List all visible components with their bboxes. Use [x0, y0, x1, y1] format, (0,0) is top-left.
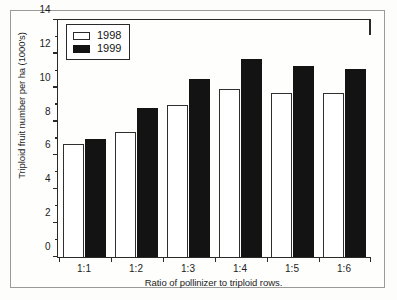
x-axis-tick-label: 1:1 [77, 263, 91, 274]
y-axis-tick-label: 12 [39, 37, 50, 48]
x-axis-tick [111, 257, 113, 262]
x-axis-tick [319, 257, 321, 262]
legend-label-1998: 1998 [97, 30, 121, 41]
x-axis-tick-label: 1:2 [129, 263, 143, 274]
y-axis-tick [53, 256, 59, 258]
bar-1998-1:6[interactable] [323, 93, 344, 257]
y-axis-tick-label: 4 [45, 173, 51, 184]
x-axis-tick-label: 1:5 [285, 263, 299, 274]
bar-1999-1:6[interactable] [345, 69, 366, 257]
legend-item-1998[interactable]: 1998 [73, 29, 121, 42]
y-axis-tick-label: 14 [39, 4, 50, 15]
y-axis-tick [53, 19, 59, 21]
legend-item-1999[interactable]: 1999 [73, 42, 121, 55]
bar-1998-1:3[interactable] [167, 105, 188, 257]
bar-1999-1:1[interactable] [85, 139, 106, 258]
x-axis-tick-label: 1:4 [233, 263, 247, 274]
legend-label-1999: 1999 [97, 43, 121, 54]
y-axis-tick-label: 10 [39, 71, 50, 82]
x-axis-tick-label: 1:6 [337, 263, 351, 274]
bar-1999-1:3[interactable] [189, 79, 210, 257]
bar-1999-1:2[interactable] [137, 108, 158, 257]
y-axis-tick-label: 2 [45, 207, 51, 218]
y-axis-tick [53, 188, 59, 190]
y-axis-minor-tick [55, 239, 58, 240]
y-axis-title: Triploid fruit number per ha (1000's) [16, 0, 27, 221]
x-axis-title: Ratio of pollinizer to triploid rows. [57, 277, 370, 288]
y-axis-minor-tick [55, 70, 58, 71]
legend-swatch-1999 [73, 45, 90, 53]
y-axis-tick [53, 86, 59, 88]
bar-1999-1:4[interactable] [241, 59, 262, 257]
x-axis-tick [370, 257, 372, 262]
x-axis-tick [163, 257, 165, 262]
x-axis-tick-label: 1:3 [181, 263, 195, 274]
y-axis-tick-label: 0 [45, 241, 51, 252]
bar-1998-1:2[interactable] [115, 132, 136, 257]
y-axis-minor-tick [55, 137, 58, 138]
y-axis-tick [53, 120, 59, 122]
y-axis-minor-tick [55, 36, 58, 37]
legend-swatch-1998 [73, 32, 90, 40]
bar-1998-1:4[interactable] [219, 89, 240, 257]
y-axis-tick [53, 52, 59, 54]
chart-legend: 1998 1999 [66, 24, 130, 60]
figure-root: Triploid fruit number per ha (1000's) 02… [0, 0, 397, 300]
bar-1998-1:5[interactable] [271, 93, 292, 257]
y-axis-tick-label: 6 [45, 139, 51, 150]
y-axis-minor-tick [55, 171, 58, 172]
y-axis-minor-tick [55, 205, 58, 206]
bar-1999-1:5[interactable] [293, 66, 314, 257]
bar-1998-1:1[interactable] [63, 144, 84, 257]
plot-right-edge [369, 19, 371, 35]
x-axis-tick [215, 257, 217, 262]
x-axis-tick [267, 257, 269, 262]
x-axis-tick [59, 257, 61, 262]
y-axis-minor-tick [55, 103, 58, 104]
y-axis-tick [53, 222, 59, 224]
y-axis-tick [53, 154, 59, 156]
y-axis-tick-label: 8 [45, 105, 51, 116]
